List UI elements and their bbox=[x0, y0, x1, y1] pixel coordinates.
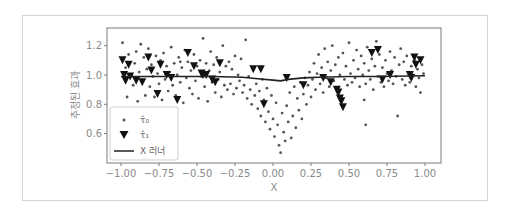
legend-label-tau0: τ̂₀ bbox=[140, 115, 149, 125]
tau0-point bbox=[320, 66, 323, 69]
tau1-point bbox=[119, 56, 127, 64]
tau1-point bbox=[132, 77, 140, 85]
tau0-point bbox=[188, 87, 191, 90]
tau0-point bbox=[392, 82, 395, 85]
tau0-point bbox=[422, 72, 425, 75]
tau0-point bbox=[144, 94, 147, 97]
tau0-point bbox=[161, 99, 164, 102]
tau0-point bbox=[179, 81, 182, 84]
tau0-point bbox=[288, 91, 291, 94]
tau0-point bbox=[270, 94, 273, 97]
tau1-point bbox=[257, 65, 265, 73]
tau0-point bbox=[170, 46, 173, 49]
tau0-point bbox=[246, 97, 249, 100]
tau0-point bbox=[383, 85, 386, 88]
tau0-point bbox=[311, 78, 314, 81]
tau0-point bbox=[419, 91, 422, 94]
tau0-point bbox=[147, 47, 150, 50]
tau0-point bbox=[378, 53, 381, 56]
tau0-point bbox=[373, 65, 376, 68]
legend: τ̂₀ τ̂₁ X 러너 bbox=[110, 107, 178, 160]
y-tick-label: 0.6 bbox=[86, 128, 102, 139]
tau1-point bbox=[173, 96, 181, 104]
tau0-point bbox=[328, 85, 331, 88]
tau0-point bbox=[267, 110, 270, 113]
tau0-point bbox=[334, 63, 337, 66]
tau0-point bbox=[241, 91, 244, 94]
tau0-point bbox=[319, 82, 322, 85]
tau0-point bbox=[360, 55, 363, 58]
tau0-point bbox=[389, 50, 392, 53]
tau0-point bbox=[164, 78, 167, 81]
tau0-point bbox=[405, 55, 408, 58]
tau0-point bbox=[214, 91, 217, 94]
tau0-point bbox=[240, 57, 243, 60]
tau0-point bbox=[231, 68, 234, 71]
tau0-point bbox=[402, 60, 405, 63]
x-tick-label: 0.50 bbox=[338, 168, 360, 179]
tau1-point bbox=[249, 65, 257, 73]
tau0-point bbox=[135, 50, 138, 53]
tau0-point bbox=[346, 84, 349, 87]
tau0-point bbox=[256, 107, 259, 110]
tau0-point bbox=[264, 120, 267, 123]
tau0-point bbox=[348, 41, 351, 44]
tau0-point bbox=[180, 66, 183, 69]
x-tick-label: 0.00 bbox=[262, 168, 284, 179]
tau0-point bbox=[367, 69, 370, 72]
x-tick-label: −0.50 bbox=[182, 168, 213, 179]
tau0-point bbox=[370, 57, 373, 60]
tau0-point bbox=[133, 62, 136, 65]
x-tick-label: −0.75 bbox=[144, 168, 175, 179]
tau0-point bbox=[126, 96, 129, 99]
tau1-point bbox=[167, 74, 175, 82]
tau0-point bbox=[369, 78, 372, 81]
tau0-point bbox=[349, 72, 352, 75]
tau0-point bbox=[232, 93, 235, 96]
x-tick-label: 1.00 bbox=[414, 168, 436, 179]
tau0-point bbox=[220, 96, 223, 99]
tau0-point bbox=[209, 50, 212, 53]
tau0-point bbox=[366, 46, 369, 49]
tau0-point bbox=[127, 53, 130, 56]
tau1-point bbox=[260, 100, 268, 108]
tau0-point bbox=[244, 38, 247, 41]
tau0-point bbox=[421, 63, 424, 66]
tau0-point bbox=[136, 100, 139, 103]
tau0-point bbox=[408, 81, 411, 84]
tau0-point bbox=[275, 101, 278, 104]
tau1-point bbox=[122, 77, 130, 85]
tau0-point bbox=[404, 84, 407, 87]
tau0-point bbox=[326, 60, 329, 63]
tau0-point bbox=[212, 63, 215, 66]
tau0-point bbox=[167, 90, 170, 93]
tau0-point bbox=[322, 91, 325, 94]
tau0-point bbox=[142, 56, 145, 59]
y-axis-label: 추정된 효과 bbox=[70, 71, 81, 119]
x-tick-label: −0.25 bbox=[220, 168, 251, 179]
legend-label-tau1: τ̂₁ bbox=[140, 130, 149, 140]
tau0-point bbox=[410, 65, 413, 68]
tau0-point bbox=[285, 104, 288, 107]
tau0-point bbox=[305, 103, 308, 106]
tau0-point bbox=[165, 65, 168, 68]
tau0-point bbox=[228, 60, 231, 63]
tau0-point bbox=[197, 97, 200, 100]
tau0-point bbox=[182, 101, 185, 104]
tau0-point bbox=[255, 82, 258, 85]
tau0-point bbox=[273, 135, 276, 138]
tau0-point bbox=[221, 44, 224, 47]
tau0-point bbox=[205, 62, 208, 65]
tau0-point bbox=[398, 63, 401, 66]
tau0-point bbox=[224, 65, 227, 68]
tau0-point bbox=[229, 82, 232, 85]
tau0-point bbox=[162, 52, 165, 55]
tau0-point bbox=[331, 44, 334, 47]
tau0-point bbox=[363, 99, 366, 102]
tau0-point bbox=[313, 62, 316, 65]
tau0-point bbox=[363, 62, 366, 65]
tau0-point bbox=[399, 47, 402, 50]
tau0-point bbox=[202, 37, 205, 40]
tau0-point bbox=[173, 62, 176, 65]
scatter-chart: −1.00−0.75−0.50−0.250.000.250.500.751.00… bbox=[0, 0, 511, 215]
